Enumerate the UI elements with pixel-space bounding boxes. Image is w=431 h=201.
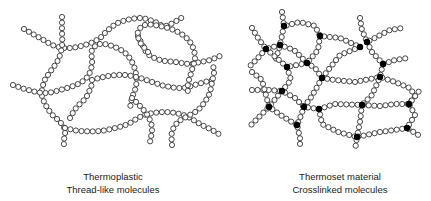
crosslink-node — [364, 39, 370, 45]
monomer-bead — [392, 58, 397, 63]
monomer-bead — [323, 71, 328, 76]
monomer-bead — [37, 90, 42, 95]
monomer-bead — [359, 26, 364, 31]
monomer-bead — [133, 87, 138, 92]
monomer-bead — [211, 70, 216, 75]
monomer-bead — [118, 124, 123, 129]
monomer-bead — [128, 103, 133, 108]
monomer-bead — [412, 113, 417, 118]
monomer-bead — [305, 99, 310, 104]
monomer-bead — [249, 25, 254, 30]
monomer-bead — [136, 36, 141, 41]
monomer-bead — [89, 77, 94, 82]
monomer-bead — [293, 63, 298, 68]
monomer-bead — [106, 73, 111, 78]
monomer-bead — [70, 111, 75, 116]
monomer-bead — [255, 35, 260, 40]
monomer-bead — [52, 63, 57, 68]
monomer-bead — [183, 115, 188, 120]
monomer-bead — [349, 40, 354, 45]
monomer-bead — [169, 21, 174, 26]
monomer-bead — [138, 114, 143, 119]
molecule-chain — [89, 72, 214, 90]
monomer-bead — [204, 79, 209, 84]
monomer-bead — [252, 30, 257, 35]
monomer-bead — [358, 114, 363, 119]
monomer-bead — [78, 44, 83, 49]
monomer-bead — [21, 26, 26, 31]
monomer-bead — [160, 83, 165, 88]
monomer-bead — [89, 65, 94, 70]
monomer-bead — [253, 118, 258, 123]
monomer-bead — [112, 126, 117, 131]
monomer-bead — [211, 128, 216, 133]
monomer-bead — [177, 85, 182, 90]
thermoplastic-caption: Thermoplastic Thread-like molecules — [13, 170, 213, 196]
monomer-bead — [175, 29, 180, 34]
monomer-bead — [49, 68, 54, 73]
monomer-bead — [62, 136, 67, 141]
monomer-bead — [321, 122, 326, 127]
monomer-bead — [73, 128, 78, 133]
monomer-bead — [262, 87, 267, 92]
monomer-bead — [353, 143, 358, 148]
monomer-bead — [84, 93, 89, 98]
monomer-bead — [387, 28, 392, 33]
monomer-bead — [133, 117, 138, 122]
monomer-bead — [298, 114, 303, 119]
monomer-bead — [142, 45, 147, 50]
monomer-bead — [45, 72, 50, 77]
monomer-bead — [263, 92, 268, 97]
monomer-bead — [165, 110, 170, 115]
monomer-bead — [126, 17, 131, 22]
monomer-bead — [308, 95, 313, 100]
monomer-bead — [249, 69, 254, 74]
monomer-bead — [116, 20, 121, 25]
monomer-bead — [168, 59, 173, 64]
monomer-bead — [26, 29, 31, 34]
monomer-bead — [127, 55, 132, 60]
monomer-bead — [67, 45, 72, 50]
monomer-bead — [342, 51, 347, 56]
monomer-bead — [154, 23, 159, 28]
crosslink-node — [357, 44, 363, 50]
molecule-chain — [135, 22, 197, 94]
monomer-bead — [186, 77, 191, 82]
crosslink-node — [380, 61, 386, 67]
monomer-bead — [134, 82, 139, 87]
monomer-bead — [383, 103, 388, 108]
monomer-bead — [36, 35, 41, 40]
monomer-bead — [316, 45, 321, 50]
monomer-bead — [148, 139, 153, 144]
monomer-bead — [148, 22, 153, 27]
monomer-bead — [89, 54, 94, 59]
monomer-bead — [330, 77, 335, 82]
monomer-bead — [317, 39, 322, 44]
monomer-bead — [292, 95, 297, 100]
monomer-bead — [217, 54, 222, 59]
monomer-bead — [382, 30, 387, 35]
monomer-bead — [59, 26, 64, 31]
monomer-bead — [169, 142, 174, 147]
monomer-bead — [333, 101, 338, 106]
monomer-bead — [352, 47, 357, 52]
monomer-bead — [171, 85, 176, 90]
monomer-bead — [60, 42, 65, 47]
monomer-bead — [54, 88, 59, 93]
monomer-bead — [169, 131, 174, 136]
monomer-bead — [347, 79, 352, 84]
monomer-bead — [171, 126, 176, 131]
thermoset-title: Thermoset material — [240, 170, 431, 183]
monomer-bead — [258, 40, 263, 45]
monomer-bead — [103, 42, 108, 47]
monomer-bead — [48, 90, 53, 95]
monomer-bead — [149, 128, 154, 133]
monomer-bead — [10, 82, 15, 87]
monomer-bead — [41, 37, 46, 42]
monomer-bead — [372, 131, 377, 136]
monomer-bead — [361, 133, 366, 138]
molecule-chain — [364, 39, 407, 66]
monomer-bead — [16, 84, 21, 89]
monomer-bead — [272, 88, 277, 93]
monomer-bead — [139, 76, 144, 81]
